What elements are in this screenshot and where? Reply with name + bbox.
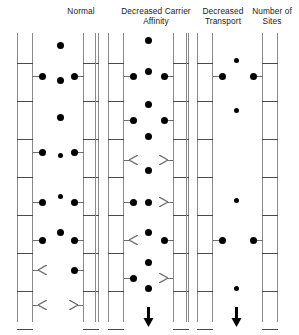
free-solute-dot: [145, 259, 152, 266]
free-solute-dot: [58, 194, 63, 199]
membrane-rung: [17, 215, 33, 216]
loaded-carrier-dot: [250, 237, 257, 244]
loaded-carrier-dot: [39, 149, 46, 156]
membrane-rung: [108, 63, 124, 64]
membrane-rung: [83, 291, 99, 292]
free-solute-dot: [234, 108, 239, 113]
membrane-rung: [173, 329, 189, 330]
membrane-rung: [108, 101, 124, 102]
membrane-rung: [83, 63, 99, 64]
loaded-carrier-dot: [130, 199, 137, 206]
membrane-rung: [17, 329, 33, 330]
membrane-rung: [17, 63, 33, 64]
loaded-carrier-dot: [130, 117, 137, 124]
membrane: [108, 33, 124, 322]
empty-carrier-chevron-icon: [159, 273, 168, 283]
membrane-rung: [17, 177, 33, 178]
loaded-carrier-dot: [250, 73, 257, 80]
empty-carrier-chevron-icon: [38, 300, 47, 310]
membrane-rung: [83, 215, 99, 216]
membrane-rung: [17, 291, 33, 292]
free-solute-dot: [145, 101, 152, 108]
net-flux-arrow-icon: [231, 307, 242, 327]
membrane-rung: [197, 139, 213, 140]
free-solute-dot: [234, 286, 239, 291]
membrane-rung: [17, 101, 33, 102]
membrane: [17, 33, 33, 322]
free-solute-dot: [145, 285, 152, 292]
net-flux-arrow-icon: [143, 307, 154, 327]
membrane-rung: [108, 215, 124, 216]
empty-carrier-chevron-icon: [129, 155, 138, 165]
free-solute-dot: [145, 229, 152, 236]
empty-carrier-chevron-icon: [129, 235, 138, 245]
loaded-carrier-dot: [130, 275, 137, 282]
loaded-carrier-dot: [219, 73, 226, 80]
membrane: [83, 33, 99, 322]
membrane-rung: [108, 291, 124, 292]
loaded-carrier-dot: [130, 73, 137, 80]
empty-carrier-chevron-icon: [69, 300, 78, 310]
free-solute-dot: [57, 114, 64, 121]
empty-carrier-chevron-icon: [159, 155, 168, 165]
membrane-rung: [197, 329, 213, 330]
loaded-carrier-dot: [39, 199, 46, 206]
free-solute-dot: [234, 58, 239, 63]
empty-carrier-chevron-icon: [38, 265, 47, 275]
membrane-rung: [262, 253, 278, 254]
membrane-rung: [262, 63, 278, 64]
membrane-rung: [197, 177, 213, 178]
loaded-carrier-dot: [219, 237, 226, 244]
membrane-rail: [186, 33, 187, 322]
header-sites: Number of Sites: [248, 6, 296, 26]
membrane-rung: [108, 177, 124, 178]
membrane-rung: [83, 177, 99, 178]
free-solute-dot: [145, 167, 152, 174]
loaded-carrier-dot: [71, 267, 78, 274]
membrane-rung: [197, 253, 213, 254]
header-affinity: Decreased Carrier Affinity: [114, 6, 198, 26]
free-solute-dot: [57, 42, 64, 49]
loaded-carrier-dot: [71, 199, 78, 206]
loaded-carrier-dot: [161, 237, 168, 244]
membrane-rung: [17, 253, 33, 254]
free-solute-dot: [234, 198, 239, 203]
membrane: [262, 33, 278, 322]
loaded-carrier-dot: [71, 73, 78, 80]
membrane-rung: [262, 291, 278, 292]
membrane-rung: [83, 139, 99, 140]
membrane-rung: [108, 139, 124, 140]
loaded-carrier-dot: [71, 237, 78, 244]
membrane-rung: [83, 101, 99, 102]
membrane-rung: [83, 253, 99, 254]
free-solute-dot: [145, 199, 152, 206]
membrane-rung: [197, 215, 213, 216]
membrane-rung: [262, 101, 278, 102]
free-solute-dot: [145, 133, 152, 140]
loaded-carrier-dot: [161, 117, 168, 124]
header-transport: Decreased Transport: [192, 6, 254, 26]
diagram-canvas: Normal Decreased Carrier Affinity Decrea…: [0, 0, 299, 335]
membrane-rung: [262, 177, 278, 178]
membrane-rung: [262, 139, 278, 140]
membrane-rail: [95, 33, 96, 322]
free-solute-dot: [145, 68, 152, 75]
loaded-carrier-dot: [39, 237, 46, 244]
free-solute-dot: [58, 153, 63, 158]
membrane-rung: [197, 291, 213, 292]
membrane-rung: [197, 101, 213, 102]
membrane-rung: [262, 329, 278, 330]
loaded-carrier-dot: [161, 73, 168, 80]
membrane-rung: [108, 253, 124, 254]
membrane-rung: [262, 215, 278, 216]
membrane-rung: [108, 329, 124, 330]
free-solute-dot: [57, 77, 64, 84]
empty-carrier-chevron-icon: [159, 197, 168, 207]
header-normal: Normal: [46, 6, 116, 16]
membrane-rung: [83, 329, 99, 330]
free-solute-dot: [57, 229, 64, 236]
membrane-rung: [17, 139, 33, 140]
membrane: [197, 33, 213, 322]
membrane-rung: [197, 63, 213, 64]
loaded-carrier-dot: [71, 149, 78, 156]
